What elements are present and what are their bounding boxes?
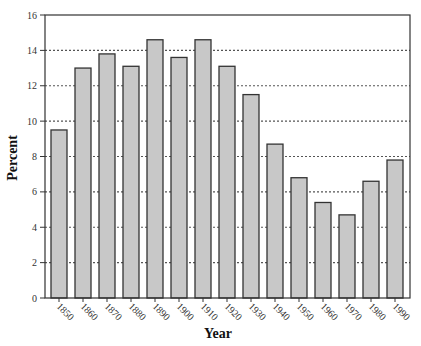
bar-1930: [243, 95, 259, 298]
y-axis-title: Percent: [5, 135, 20, 181]
y-tick-label: 14: [27, 45, 37, 56]
x-tick-label: 1980: [367, 301, 389, 323]
bar-1940: [267, 144, 283, 298]
bar-1920: [219, 66, 235, 298]
bar-1970: [339, 215, 355, 298]
x-tick-label: 1850: [55, 301, 77, 323]
bar-1870: [99, 54, 115, 298]
bar-1910: [195, 40, 211, 298]
y-axis-ticks: 0246810121416: [27, 10, 45, 304]
y-tick-label: 10: [27, 116, 37, 127]
bar-1900: [171, 57, 187, 298]
x-axis-ticks: 1850186018701880189019001910192019301940…: [55, 298, 413, 323]
bar-1980: [363, 181, 379, 298]
bar-1950: [291, 178, 307, 298]
bar-1990: [387, 160, 403, 298]
y-tick-label: 8: [32, 151, 37, 162]
x-tick-label: 1920: [223, 301, 245, 323]
bars: [51, 40, 403, 298]
bar-1880: [123, 66, 139, 298]
x-tick-label: 1910: [199, 301, 221, 323]
x-tick-label: 1990: [391, 301, 413, 323]
x-tick-label: 1900: [175, 301, 197, 323]
x-tick-label: 1930: [247, 301, 269, 323]
bar-chart: 0246810121416 18501860187018801890190019…: [0, 0, 421, 346]
x-tick-label: 1970: [343, 301, 365, 323]
bar-1960: [315, 202, 331, 298]
x-tick-label: 1890: [151, 301, 173, 323]
y-tick-label: 2: [32, 257, 37, 268]
x-tick-label: 1880: [127, 301, 149, 323]
y-tick-label: 6: [32, 186, 37, 197]
x-tick-label: 1940: [271, 301, 293, 323]
x-tick-label: 1860: [79, 301, 101, 323]
y-tick-label: 16: [27, 10, 37, 21]
bar-1860: [75, 68, 91, 298]
x-tick-label: 1870: [103, 301, 125, 323]
bar-1850: [51, 130, 67, 298]
y-tick-label: 4: [32, 222, 37, 233]
x-tick-label: 1950: [295, 301, 317, 323]
y-tick-label: 12: [27, 80, 37, 91]
x-tick-label: 1960: [319, 301, 341, 323]
x-axis-title: Year: [204, 326, 232, 341]
y-tick-label: 0: [32, 293, 37, 304]
bar-1890: [147, 40, 163, 298]
